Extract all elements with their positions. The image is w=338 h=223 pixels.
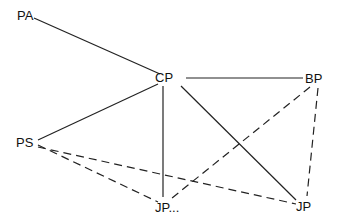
edge-cp-ps [38,84,158,140]
node-bp: BP [305,72,322,85]
node-jp-ellipsis: JP... [155,201,179,214]
edge-ps-jp1 [38,145,158,202]
network-diagram: PA CP BP PS JP... JP [0,0,338,223]
edge-ps-jp2 [38,147,296,204]
node-cp: CP [155,71,173,84]
edge-cp-jp2 [181,86,296,200]
node-pa: PA [17,9,33,22]
edge-bp-jp2 [307,88,318,196]
diagram-edges [0,0,338,223]
edge-pa-cp [34,18,160,74]
edge-bp-jp1 [172,87,310,198]
node-jp: JP [296,200,311,213]
node-ps: PS [16,136,33,149]
